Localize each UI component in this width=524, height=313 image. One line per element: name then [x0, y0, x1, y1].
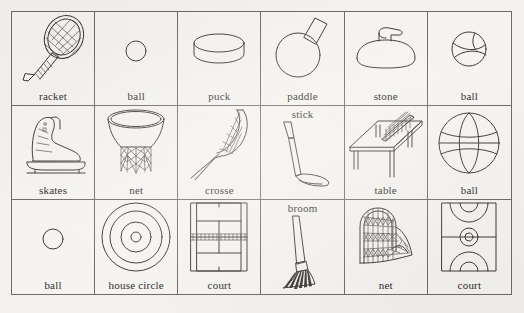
small-ball-icon	[95, 12, 177, 86]
small-ball-icon	[12, 200, 94, 274]
cell-label: stone	[345, 90, 427, 102]
grid-cell-stick[interactable]: stick	[261, 106, 344, 200]
cell-label: ball	[95, 90, 177, 102]
cell-label: racket	[12, 90, 94, 102]
grid-cell-net-basket[interactable]: net	[95, 106, 178, 200]
basketball-court-icon	[428, 200, 511, 274]
tennis-court-icon	[178, 200, 260, 274]
scanned-page: racket ball puck	[0, 0, 524, 313]
curling-house-icon	[95, 200, 177, 274]
table-tennis-table-icon	[345, 106, 427, 180]
cell-label: stick	[261, 108, 343, 120]
cell-label: house circle	[95, 279, 177, 291]
grid-cell-net-goal[interactable]: net	[345, 200, 428, 294]
cell-label: skates	[12, 184, 94, 196]
golf-club-icon	[261, 120, 343, 196]
grid-cell-skates[interactable]: skates	[12, 106, 95, 200]
hockey-puck-icon	[178, 12, 260, 86]
equipment-grid: racket ball puck	[11, 11, 512, 295]
grid-cell-broom[interactable]: broom	[261, 200, 344, 294]
tennis-racket-icon	[12, 12, 94, 86]
cell-label: paddle	[261, 90, 343, 102]
grid-cell-ball-basket[interactable]: ball	[428, 106, 511, 200]
table-tennis-paddle-icon	[261, 12, 343, 86]
curling-broom-icon	[261, 214, 343, 290]
cell-label: crosse	[178, 184, 260, 196]
grid-cell-table[interactable]: table	[345, 106, 428, 200]
cell-label: ball	[12, 279, 94, 291]
cell-label: ball	[428, 90, 511, 102]
cell-label: court	[178, 279, 260, 291]
grid-cell-crosse[interactable]: crosse	[178, 106, 261, 200]
ice-skate-icon	[12, 106, 94, 180]
seamed-ball-icon	[428, 12, 511, 86]
grid-cell-stone[interactable]: stone	[345, 12, 428, 106]
cell-label: broom	[261, 202, 343, 214]
grid-cell-puck[interactable]: puck	[178, 12, 261, 106]
cell-label: puck	[178, 90, 260, 102]
grid-cell-racket[interactable]: racket	[12, 12, 95, 106]
cell-label: net	[345, 279, 427, 291]
grid-cell-ball-tennis[interactable]: ball	[95, 12, 178, 106]
grid-cell-court-tennis[interactable]: court	[178, 200, 261, 294]
grid-cell-paddle[interactable]: paddle	[261, 12, 344, 106]
goal-net-icon	[345, 200, 427, 274]
cell-label: table	[345, 184, 427, 196]
grid-cell-court-basket[interactable]: court	[428, 200, 511, 294]
curling-stone-icon	[345, 12, 427, 86]
basketball-net-icon	[95, 106, 177, 180]
cell-label: net	[95, 184, 177, 196]
grid-cell-ball-baseball[interactable]: ball	[428, 12, 511, 106]
grid-cell-house-circle[interactable]: house circle	[95, 200, 178, 294]
cell-label: ball	[428, 184, 511, 196]
basketball-icon	[428, 106, 511, 180]
grid-cell-ball-golf[interactable]: ball	[12, 200, 95, 294]
lacrosse-stick-icon	[178, 106, 260, 180]
cell-label: court	[428, 279, 511, 291]
